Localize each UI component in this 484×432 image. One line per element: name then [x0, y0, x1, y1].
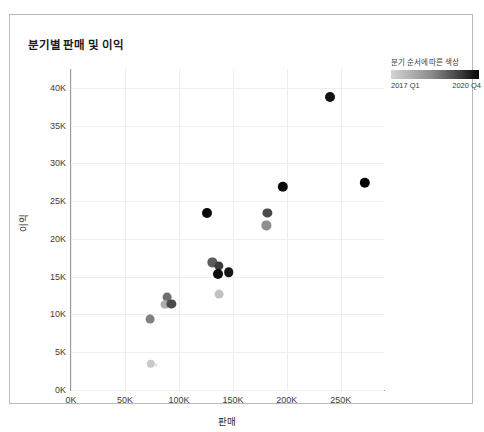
y-axis-tick-label: 40K	[26, 83, 66, 93]
scatter-point[interactable]	[147, 359, 155, 367]
scatter-point[interactable]	[262, 221, 271, 230]
gridline-horizontal	[71, 314, 384, 315]
y-axis-tick-label: 20K	[26, 234, 66, 244]
gridline-horizontal	[71, 239, 384, 240]
y-axis-tick-label: 30K	[26, 158, 66, 168]
gridline-horizontal	[71, 390, 384, 391]
y-axis-tick-label: 15K	[26, 272, 66, 282]
legend-min-label: 2017 Q1	[391, 81, 420, 90]
legend-range-labels: 2017 Q1 2020 Q4	[391, 81, 481, 90]
gridline-vertical	[341, 69, 342, 390]
y-axis-tick-label: 0K	[26, 385, 66, 395]
gridline-vertical	[125, 69, 126, 390]
scatter-point[interactable]	[155, 364, 158, 367]
scatter-point[interactable]	[213, 269, 223, 279]
x-axis-tick-label: 100K	[159, 395, 199, 405]
chart-panel: 분기별 판매 및 이익 분기 순서에 따른 색상 2017 Q1 2020 Q4…	[9, 14, 473, 404]
x-axis-tick-label: 50K	[105, 395, 145, 405]
scatter-point[interactable]	[325, 92, 335, 102]
scatter-plot-area	[71, 69, 384, 390]
scatter-point[interactable]	[202, 208, 212, 218]
x-axis-tick-label: 250K	[321, 395, 361, 405]
x-axis-tick-label: 150K	[213, 395, 253, 405]
gridline-horizontal	[71, 88, 384, 89]
gridline-vertical	[233, 69, 234, 390]
x-axis-title: 판매	[218, 414, 236, 428]
gridline-horizontal	[71, 352, 384, 353]
y-axis-tick-label: 25K	[26, 196, 66, 206]
y-axis-tick-label: 5K	[26, 347, 66, 357]
scatter-point[interactable]	[263, 208, 272, 217]
y-axis-title: 이익	[16, 214, 30, 232]
scatter-point[interactable]	[145, 315, 154, 324]
scatter-point[interactable]	[214, 290, 223, 299]
scatter-point[interactable]	[224, 267, 234, 277]
x-axis-tick-label: 0K	[51, 395, 91, 405]
gridline-horizontal	[71, 126, 384, 127]
legend-title: 분기 순서에 따른 색상	[391, 56, 481, 67]
gridline-vertical	[179, 69, 180, 390]
scatter-point[interactable]	[167, 299, 176, 308]
x-axis-tick-label: 200K	[267, 395, 307, 405]
y-axis-tick-label: 35K	[26, 121, 66, 131]
scatter-point[interactable]	[359, 178, 369, 188]
gridline-horizontal	[71, 201, 384, 202]
gridline-vertical	[287, 69, 288, 390]
color-legend: 분기 순서에 따른 색상 2017 Q1 2020 Q4	[391, 56, 481, 90]
gridline-vertical	[71, 69, 72, 390]
y-axis-tick-label: 10K	[26, 309, 66, 319]
gridline-horizontal	[71, 163, 384, 164]
legend-gradient-bar	[391, 70, 479, 79]
legend-max-label: 2020 Q4	[452, 81, 481, 90]
